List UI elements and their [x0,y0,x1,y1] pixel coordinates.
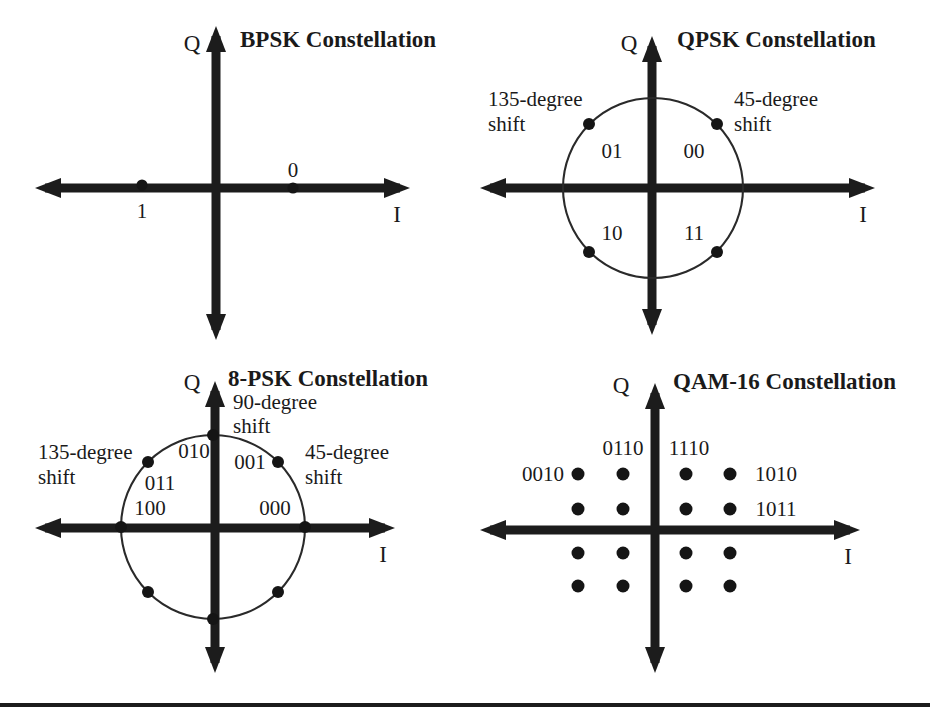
psk8-symbol-label: 010 [178,439,210,463]
bpsk-q-axis [206,26,226,340]
bpsk-symbol-point [137,180,148,191]
bpsk-i-axis-label: I [393,202,401,227]
psk8-symbol-label: 001 [234,450,266,474]
qam16-symbol-point [617,580,630,593]
qpsk-symbol-label: 11 [684,221,704,245]
qam16-symbol-point [572,503,585,516]
qam16-symbol-point [680,547,693,560]
qpsk-symbol-point [711,118,723,130]
qam16-symbol-point [680,468,693,481]
psk8-i-axis-label: I [379,542,387,567]
qam16-symbol-label: 0110 [602,436,643,460]
qpsk-symbol-point [583,246,595,258]
psk8-symbol-point [142,586,154,598]
qam16-symbol-label: 1110 [669,436,709,460]
qam16-symbol-point [724,547,737,560]
qpsk-q-axis-label: Q [621,31,638,56]
bpsk-symbol-label: 0 [288,158,299,182]
qpsk-panel-title: QPSK Constellation [677,27,876,52]
psk8-annotation-135-line2: shift [38,465,76,489]
bpsk-panel: Q I BPSK Constellation 1 0 [0,0,465,363]
psk8-symbol-point [207,613,219,625]
psk8-q-axis-label: Q [184,370,201,395]
qpsk-symbol-label: 10 [602,221,623,245]
qam16-symbol-point [680,580,693,593]
qam16-i-axis [480,520,860,540]
psk8-symbol-point [299,521,311,533]
qpsk-annotation-45-line1: 45-degree [734,87,818,111]
psk8-panel-title: 8-PSK Constellation [228,366,428,391]
qam16-symbol-point [572,547,585,560]
qam16-symbol-label: 1011 [755,497,796,521]
qpsk-symbol-point [583,118,595,130]
qam16-symbol-point [724,503,737,516]
psk8-annotation-135-line1: 135-degree [38,440,132,464]
qam16-i-axis-label: I [844,544,852,569]
footer-divider-rule [0,703,930,707]
constellation-figure: Q I BPSK Constellation 1 0 Q I QPSK Cons… [0,0,930,726]
psk8-symbol-label: 000 [259,496,291,520]
bpsk-symbol-point [288,183,299,194]
psk8-symbol-point [115,521,127,533]
qam16-symbol-label: 0010 [522,462,564,486]
psk8-panel: Q I 8-PSK Constellation 135-degree shift… [0,363,465,703]
qam16-symbol-point [617,547,630,560]
qpsk-annotation-135-line1: 135-degree [488,87,582,111]
psk8-symbol-point [142,456,154,468]
qam16-symbol-point [572,468,585,481]
qam16-panel: Q I QAM-16 Constellation 0010 0110 1110 … [465,363,930,703]
bpsk-panel-title: BPSK Constellation [240,27,436,52]
psk8-annotation-90-line1: 90-degree [233,390,317,414]
bpsk-i-axis [35,178,410,198]
qpsk-i-axis-label: I [859,202,867,227]
qam16-symbol-point [617,468,630,481]
qpsk-i-axis [480,178,875,198]
psk8-annotation-45-line2: shift [305,465,343,489]
psk8-symbol-point [272,456,284,468]
qpsk-symbol-label: 00 [684,139,705,163]
qpsk-symbol-point [711,246,723,258]
qpsk-panel: Q I QPSK Constellation 135-degree shift … [465,0,930,363]
psk8-annotation-90-line2: shift [233,414,271,438]
bpsk-q-axis-label: Q [184,31,201,56]
qpsk-annotation-45-line2: shift [734,112,772,136]
qam16-symbol-point [724,580,737,593]
qam16-symbol-point [572,580,585,593]
qam16-symbol-point [617,503,630,516]
psk8-symbol-label: 100 [134,496,166,520]
qam16-symbol-point [680,503,693,516]
qpsk-symbol-label: 01 [602,139,623,163]
psk8-symbol-point [272,586,284,598]
qam16-symbol-label: 1010 [755,462,797,486]
qam16-symbol-point [724,468,737,481]
qpsk-annotation-135-line2: shift [488,112,526,136]
psk8-symbol-label: 011 [145,471,176,495]
psk8-annotation-45-line1: 45-degree [305,440,389,464]
bpsk-symbol-label: 1 [137,199,148,223]
qam16-q-axis-label: Q [613,373,630,398]
qam16-panel-title: QAM-16 Constellation [673,369,896,394]
